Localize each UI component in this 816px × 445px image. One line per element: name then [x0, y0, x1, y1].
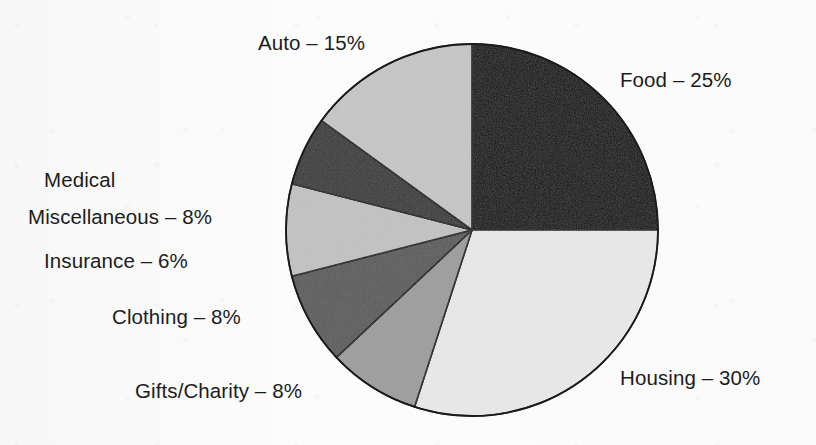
- slice-label-food: Food – 25%: [620, 66, 732, 93]
- slice-label-medical-line1: Medical: [44, 166, 274, 193]
- slice-label-medical-line2: Insurance – 6%: [44, 247, 274, 274]
- pie-chart-figure: Auto – 15% Medical Insurance – 6% Miscel…: [0, 0, 816, 445]
- slice-label-miscellaneous: Miscellaneous – 8%: [28, 203, 212, 230]
- pie-slice-group: [286, 44, 658, 416]
- slice-label-housing: Housing – 30%: [620, 364, 760, 391]
- slice-label-auto: Auto – 15%: [258, 29, 365, 56]
- slice-label-clothing: Clothing – 8%: [112, 303, 241, 330]
- slice-label-gifts-charity: Gifts/Charity – 8%: [135, 377, 302, 404]
